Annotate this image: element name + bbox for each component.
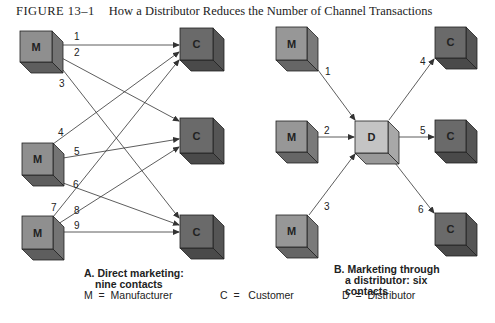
svg-text:C: C — [447, 223, 455, 235]
svg-text:M: M — [287, 225, 296, 237]
svg-text:5: 5 — [420, 125, 426, 136]
customer-cube-a1: C — [180, 28, 224, 71]
svg-text:7: 7 — [51, 202, 57, 213]
svg-text:C: C — [447, 36, 455, 48]
svg-text:1: 1 — [325, 66, 331, 77]
panel-a-contacts — [53, 45, 179, 232]
svg-text:6: 6 — [418, 204, 424, 215]
svg-text:4: 4 — [420, 56, 426, 67]
svg-text:1: 1 — [74, 31, 80, 42]
svg-text:3: 3 — [59, 78, 65, 89]
svg-text:C: C — [447, 130, 455, 142]
legend-distributor: D = Distributor — [342, 289, 415, 301]
svg-text:C: C — [193, 130, 201, 142]
manufacturer-cube-b2: M — [276, 121, 318, 163]
manufacturer-cube-b3: M — [276, 215, 318, 258]
svg-text:2: 2 — [74, 47, 80, 58]
svg-text:D: D — [368, 131, 376, 143]
svg-text:M: M — [33, 227, 42, 239]
svg-text:2: 2 — [324, 125, 330, 136]
customer-cube-b2: C — [435, 120, 477, 163]
svg-text:M: M — [33, 153, 42, 165]
manufacturer-cube-a3: M — [22, 216, 64, 260]
svg-text:3: 3 — [324, 201, 330, 212]
legend-manufacturer: M = Manufacturer — [84, 289, 172, 301]
customer-cube-b3: C — [435, 213, 477, 256]
panel-a-caption: A. Direct marketing: nine contacts — [84, 268, 184, 290]
svg-text:9: 9 — [74, 220, 80, 231]
customer-cube-b1: C — [435, 27, 477, 69]
svg-text:5: 5 — [74, 146, 80, 157]
customer-cube-a2: C — [180, 118, 224, 164]
manufacturer-cube-a2: M — [22, 143, 64, 186]
svg-text:C: C — [193, 38, 201, 50]
svg-text:M: M — [287, 38, 296, 50]
manufacturer-cube-a1: M — [20, 31, 63, 73]
distributor-cube: D — [355, 121, 399, 164]
customer-cube-a3: C — [180, 215, 224, 259]
svg-text:8: 8 — [74, 205, 80, 216]
svg-text:6: 6 — [73, 179, 79, 190]
svg-text:4: 4 — [58, 127, 64, 138]
svg-text:M: M — [287, 131, 296, 143]
manufacturer-cube-b1: M — [276, 27, 318, 71]
svg-text:M: M — [31, 41, 40, 53]
svg-text:C: C — [193, 226, 201, 238]
legend-customer: C = Customer — [220, 289, 294, 301]
